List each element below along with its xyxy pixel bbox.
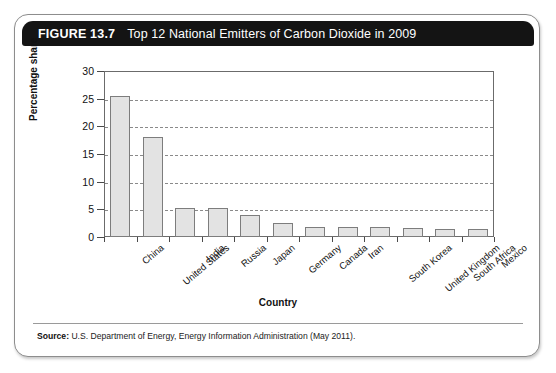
source-divider — [33, 323, 523, 324]
figure-header: FIGURE 13.7 Top 12 National Emitters of … — [22, 21, 534, 46]
x-tick-label: China — [140, 242, 166, 266]
y-tick-label: 20 — [82, 120, 94, 132]
x-tick-label: Germany — [306, 242, 343, 276]
figure-number: FIGURE 13.7 — [38, 27, 115, 41]
y-tick-mark — [97, 237, 104, 238]
x-axis-title: Country — [22, 297, 534, 308]
y-tick-mark — [97, 99, 104, 100]
y-tick-label: 15 — [82, 148, 94, 160]
x-tick-label: South Korea — [407, 242, 455, 284]
y-tick-mark — [97, 126, 104, 127]
bar — [273, 223, 293, 237]
x-tick-label: Japan — [270, 242, 297, 267]
bar — [338, 227, 358, 237]
bar — [468, 229, 488, 237]
x-axis-labels: ChinaUnited StatesIndiaRussiaJapanGerman… — [104, 242, 494, 304]
y-tick-mark — [97, 209, 104, 210]
bars-layer — [104, 71, 494, 237]
bar — [435, 229, 455, 237]
x-tick-label: Canada — [337, 242, 370, 272]
bar — [175, 208, 195, 237]
bar — [403, 228, 423, 237]
bar — [208, 208, 228, 237]
x-tick-label: Russia — [239, 242, 268, 269]
y-tick-label: 0 — [88, 231, 94, 243]
y-tick-label: 25 — [82, 93, 94, 105]
figure-card: FIGURE 13.7 Top 12 National Emitters of … — [14, 14, 540, 357]
y-tick-label: 5 — [88, 203, 94, 215]
bar — [143, 137, 163, 237]
bar — [240, 215, 260, 237]
bar — [305, 227, 325, 238]
y-tick-label: 30 — [82, 65, 94, 77]
x-tick-label: Iran — [366, 242, 386, 261]
figure-title: Top 12 National Emitters of Carbon Dioxi… — [127, 27, 416, 41]
source-label: Source: — [37, 331, 69, 341]
y-axis-ticks: 051015202530 — [22, 71, 104, 239]
chart-area: Percentage share 051015202530 ChinaUnite… — [22, 49, 534, 317]
bar — [110, 96, 130, 237]
source-text: U.S. Department of Energy, Energy Inform… — [71, 331, 355, 341]
y-tick-mark — [97, 71, 104, 72]
y-tick-mark — [97, 154, 104, 155]
source-line: Source: U.S. Department of Energy, Energ… — [37, 331, 521, 341]
bar — [370, 227, 390, 237]
y-tick-mark — [97, 182, 104, 183]
y-tick-label: 10 — [82, 176, 94, 188]
